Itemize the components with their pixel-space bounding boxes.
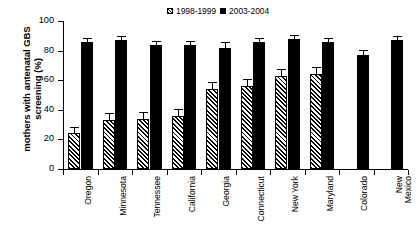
bar-1998-1999 — [68, 133, 80, 169]
x-axis-tick — [270, 170, 271, 175]
error-bar-cap — [243, 79, 252, 80]
y-axis-title: mothers with antenatal GBS screening (%) — [17, 9, 47, 169]
bar-1998-1999 — [172, 116, 184, 169]
error-bar-cap — [186, 41, 195, 42]
category-label: Connecticut — [257, 176, 266, 233]
error-bar-cap — [208, 82, 217, 83]
y-axis-tick-label: 0 — [49, 163, 58, 173]
bar-group — [305, 21, 340, 169]
x-axis-tick — [408, 170, 409, 175]
error-bar — [328, 39, 329, 42]
x-axis-tick — [305, 170, 306, 175]
bar-2003-2004 — [184, 45, 196, 169]
bar-2003-2004 — [219, 48, 231, 169]
error-bar — [294, 36, 295, 39]
error-bar-cap — [359, 50, 368, 51]
bar-1998-1999 — [310, 74, 322, 169]
error-bar — [109, 114, 110, 120]
x-axis-tick — [374, 170, 375, 175]
error-bar-cap — [290, 35, 299, 36]
category-label: Oregon — [84, 176, 93, 233]
x-axis-tick — [339, 170, 340, 175]
category-label: New York — [291, 176, 300, 233]
legend-label-1998-1999: 1998-1999 — [176, 6, 216, 16]
bar-group — [270, 21, 305, 169]
y-axis-tick-label: 80 — [44, 45, 58, 55]
error-bar-cap — [117, 36, 126, 37]
bar-group — [63, 21, 98, 169]
bar-2003-2004 — [288, 39, 300, 169]
bar-1998-1999 — [137, 119, 149, 169]
error-bar-cap — [139, 112, 148, 113]
category-label: Tennessee — [153, 176, 162, 233]
category-label: Georgia — [222, 176, 231, 233]
bar-2003-2004 — [253, 42, 265, 169]
y-axis-tick-label: 20 — [44, 133, 58, 143]
error-bar-cap — [152, 41, 161, 42]
error-bar — [316, 68, 317, 74]
error-bar — [225, 43, 226, 47]
bar-2003-2004 — [115, 40, 127, 169]
bar-1998-1999 — [103, 120, 115, 169]
bar-1998-1999 — [206, 89, 218, 169]
error-bar-cap — [277, 69, 286, 70]
y-axis-tick-label: 100 — [39, 15, 58, 25]
bar-group — [236, 21, 271, 169]
chart-legend: 1998-1999 2003-2004 — [167, 6, 269, 16]
error-bar-cap — [393, 36, 402, 37]
x-axis-tick — [201, 170, 202, 175]
error-bar — [121, 37, 122, 40]
error-bar — [87, 39, 88, 42]
x-axis-tick — [98, 170, 99, 175]
bar-1998-1999 — [241, 86, 253, 169]
error-bar — [281, 70, 282, 76]
bar-2003-2004 — [357, 55, 369, 169]
category-label: New Mexico — [395, 176, 414, 233]
y-axis-title-line-2: screening (%) — [32, 58, 44, 120]
error-bar-cap — [174, 109, 183, 110]
x-axis-tick — [167, 170, 168, 175]
category-label: Maryland — [326, 176, 335, 233]
category-label: Minnesota — [119, 176, 128, 233]
legend-item-1998-1999: 1998-1999 — [167, 6, 216, 16]
x-axis-tick — [236, 170, 237, 175]
category-label: Colorado — [360, 176, 369, 233]
error-bar-cap — [83, 38, 92, 39]
category-label: California — [188, 176, 197, 233]
bar-group — [374, 21, 409, 169]
legend-item-2003-2004: 2003-2004 — [220, 6, 269, 16]
bar-2003-2004 — [391, 40, 403, 169]
bar-group — [167, 21, 202, 169]
x-axis-tick — [132, 170, 133, 175]
error-bar-cap — [221, 42, 230, 43]
bar-2003-2004 — [81, 42, 93, 169]
bar-2003-2004 — [322, 42, 334, 169]
bar-2003-2004 — [150, 45, 162, 169]
error-bar-cap — [324, 38, 333, 39]
error-bar — [247, 80, 248, 86]
y-axis-title-line-1: mothers with antenatal GBS — [21, 26, 33, 151]
bar-1998-1999 — [275, 76, 287, 169]
hatched-swatch-icon — [167, 8, 173, 14]
plot-area — [63, 21, 408, 169]
y-axis-tick-label: 40 — [44, 104, 58, 114]
error-bar — [74, 128, 75, 134]
error-bar-cap — [70, 127, 79, 128]
bar-group — [98, 21, 133, 169]
error-bar-cap — [105, 113, 114, 114]
bar-group — [339, 21, 374, 169]
error-bar — [259, 39, 260, 42]
bar-group — [201, 21, 236, 169]
x-axis-tick — [63, 170, 64, 175]
error-bar — [190, 42, 191, 45]
bar-group — [132, 21, 167, 169]
error-bar-cap — [312, 67, 321, 68]
error-bar-cap — [255, 38, 264, 39]
error-bar — [156, 42, 157, 45]
error-bar — [178, 110, 179, 116]
error-bar — [143, 113, 144, 119]
error-bar — [212, 83, 213, 89]
solid-swatch-icon — [220, 8, 226, 14]
y-axis-tick-label: 60 — [44, 74, 58, 84]
error-bar — [363, 51, 364, 55]
